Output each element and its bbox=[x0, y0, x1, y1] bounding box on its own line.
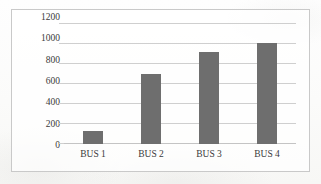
y-tick-label-1200: 1200 bbox=[14, 13, 60, 23]
x-tick-label-bus-3: BUS 3 bbox=[180, 148, 238, 160]
y-tick-label-600: 600 bbox=[14, 77, 60, 87]
x-tick-label-bus-2: BUS 2 bbox=[122, 148, 180, 160]
y-axis: 1200 1000 800 600 400 200 0 bbox=[14, 18, 60, 146]
bar-bus-1 bbox=[83, 131, 103, 144]
bar-slot-bus-4 bbox=[238, 23, 296, 144]
x-axis: BUS 1 BUS 2 BUS 3 BUS 4 bbox=[64, 148, 296, 164]
y-tick-label-200: 200 bbox=[14, 120, 60, 130]
y-tick-label-400: 400 bbox=[14, 99, 60, 109]
bar-slot-bus-3 bbox=[180, 23, 238, 144]
bar-bus-3 bbox=[199, 52, 219, 144]
y-tick-label-0: 0 bbox=[14, 141, 60, 151]
bar-bus-4 bbox=[257, 43, 277, 144]
bars-layer bbox=[64, 23, 296, 144]
y-tick-label-800: 800 bbox=[14, 56, 60, 66]
x-tick-label-bus-1: BUS 1 bbox=[64, 148, 122, 160]
chart-screenshot: 1200 1000 800 600 400 200 0 BUS 1 BUS 2 … bbox=[0, 0, 321, 184]
bar-slot-bus-1 bbox=[64, 23, 122, 144]
x-tick-label-bus-4: BUS 4 bbox=[238, 148, 296, 160]
bar-bus-2 bbox=[141, 74, 161, 144]
bar-slot-bus-2 bbox=[122, 23, 180, 144]
plot-area bbox=[64, 23, 296, 144]
y-tick-label-1000: 1000 bbox=[14, 35, 60, 45]
